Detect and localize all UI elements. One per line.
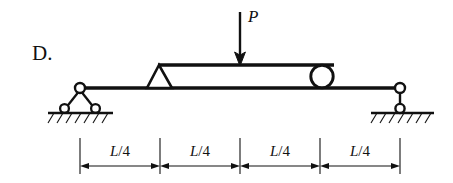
dimension-label-1: L/4	[109, 143, 131, 159]
load-label: P	[247, 7, 258, 26]
dimension-arrowhead-3-right	[311, 163, 320, 169]
right-ground-hatch	[371, 113, 431, 123]
dimension-arrowhead-3-left	[240, 163, 249, 169]
dimension-label-4-symbol: L	[349, 143, 358, 159]
dimension-label-4-fraction: /4	[358, 143, 370, 159]
dimension-label-2: L/4	[189, 143, 211, 159]
choice-letter-label: D.	[32, 41, 52, 65]
left-support-hinge-pin	[75, 83, 85, 93]
left-support-roller-b	[91, 104, 100, 113]
left-support-roller-a	[60, 104, 69, 113]
beam-diagram-figure: D. P L/4 L/4 L/4 L/4	[0, 0, 453, 183]
dimension-label-1-fraction: /4	[118, 143, 130, 159]
internal-hinge-triangle	[147, 65, 172, 88]
load-arrow-group	[235, 12, 246, 66]
left-ground-hatch	[48, 113, 108, 123]
dimension-arrowhead-2-right	[231, 163, 240, 169]
dimension-label-2-fraction: /4	[198, 143, 210, 159]
right-support-pin-top	[395, 83, 405, 93]
dimension-arrowhead-2-left	[160, 163, 169, 169]
dimension-label-3-fraction: /4	[278, 143, 290, 159]
dimension-arrowhead-1-right	[151, 163, 160, 169]
dimension-label-2-symbol: L	[189, 143, 198, 159]
dimension-arrowhead-4-left	[320, 163, 329, 169]
beam-diagram-svg: D. P L/4 L/4 L/4 L/4	[0, 0, 453, 183]
dimension-label-1-symbol: L	[109, 143, 118, 159]
dimension-label-4: L/4	[349, 143, 371, 159]
dimension-arrowhead-1-left	[80, 163, 89, 169]
dimension-arrowhead-4-right	[391, 163, 400, 169]
internal-roller-circle	[311, 65, 333, 87]
dimension-label-3-symbol: L	[269, 143, 278, 159]
dimension-label-3: L/4	[269, 143, 291, 159]
